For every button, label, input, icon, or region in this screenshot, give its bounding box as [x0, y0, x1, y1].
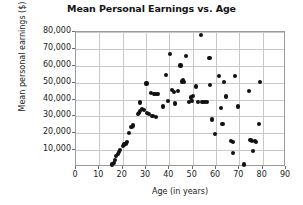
x-axis-tick-mark: [192, 166, 193, 169]
x-axis-tick-mark: [75, 166, 76, 169]
data-point: [257, 122, 261, 126]
y-axis-tick-label: 30,000: [11, 110, 71, 119]
gridline-vertical: [99, 32, 100, 165]
data-point: [127, 131, 131, 135]
data-point: [138, 100, 142, 104]
data-point: [210, 117, 214, 121]
y-axis-tick-label: 50,000: [11, 77, 71, 86]
x-axis-tick-mark: [145, 166, 146, 169]
x-axis-tick-mark: [262, 166, 263, 169]
gridline-horizontal: [76, 133, 284, 134]
data-point: [161, 104, 165, 108]
data-point: [176, 89, 180, 93]
scatter-chart: Mean Personal Earnings vs. Age Mean pers…: [0, 0, 303, 205]
data-point: [166, 99, 170, 103]
data-point: [242, 162, 246, 166]
data-point: [233, 74, 237, 78]
data-point: [178, 63, 182, 67]
x-axis-tick-mark: [98, 166, 99, 169]
data-point: [207, 56, 211, 60]
gridline-horizontal: [76, 116, 284, 117]
data-point: [219, 106, 223, 110]
data-point: [155, 92, 159, 96]
gridline-vertical: [146, 32, 147, 165]
plot-area: [75, 31, 285, 166]
data-point: [247, 89, 251, 93]
y-axis-tick-label: 20,000: [11, 127, 71, 136]
data-point: [236, 104, 240, 108]
gridline-horizontal: [76, 100, 284, 101]
data-point: [220, 122, 224, 126]
data-point: [199, 33, 203, 37]
data-point: [154, 115, 158, 119]
data-point: [173, 101, 177, 105]
y-axis-tick-label: 40,000: [11, 94, 71, 103]
data-point: [144, 81, 148, 85]
data-point: [231, 151, 235, 155]
data-point: [125, 140, 129, 144]
gridline-vertical: [263, 32, 264, 165]
y-axis-tick-label: 60,000: [11, 60, 71, 69]
data-point: [164, 73, 168, 77]
data-point: [131, 123, 135, 127]
data-point: [113, 158, 117, 162]
data-point: [222, 80, 226, 84]
data-point: [217, 74, 221, 78]
data-point: [168, 52, 172, 56]
data-point: [208, 83, 212, 87]
y-axis-tick-label: 70,000: [11, 43, 71, 52]
x-axis-tick-mark: [215, 166, 216, 169]
x-axis-tick-label: 90: [270, 170, 300, 179]
gridline-horizontal: [76, 49, 284, 50]
data-point: [184, 54, 188, 58]
data-point: [224, 94, 228, 98]
gridline-vertical: [239, 32, 240, 165]
data-point: [254, 140, 258, 144]
gridline-vertical: [216, 32, 217, 165]
x-axis-tick-mark: [122, 166, 123, 169]
chart-title: Mean Personal Earnings vs. Age: [0, 3, 303, 14]
gridline-horizontal: [76, 32, 284, 33]
x-axis-tick-mark: [168, 166, 169, 169]
data-point: [251, 149, 255, 153]
y-axis-tick-label: 10,000: [11, 144, 71, 153]
data-point: [194, 84, 198, 88]
x-axis-label: Age (in years): [75, 187, 285, 196]
y-axis-tick-label: 80,000: [11, 26, 71, 35]
x-axis-tick-mark: [285, 166, 286, 169]
data-point: [205, 100, 209, 104]
data-point: [213, 132, 217, 136]
data-point: [191, 94, 195, 98]
data-point: [231, 140, 235, 144]
x-axis-tick-mark: [238, 166, 239, 169]
